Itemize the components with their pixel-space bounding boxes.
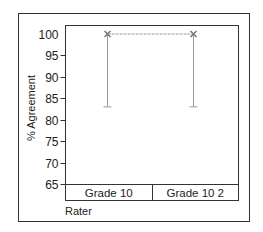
plot-area: Grade 10Grade 10 265707580859095100 [38, 26, 238, 201]
y-tick-label: 75 [45, 135, 59, 149]
y-tick-label: 100 [38, 28, 58, 42]
y-axis-title: % Agreement [25, 75, 37, 141]
y-tick-label: 90 [45, 71, 59, 85]
category-label: Grade 10 [85, 187, 133, 199]
y-tick-label: 95 [45, 49, 59, 63]
y-tick-label: 85 [45, 92, 59, 106]
chart: Grade 10Grade 10 265707580859095100 % Ag… [0, 0, 263, 232]
x-axis-title: Rater [65, 205, 92, 217]
category-label: Grade 10 2 [166, 187, 224, 199]
plot-frame [66, 26, 239, 201]
y-tick-label: 70 [45, 157, 59, 171]
y-tick-label: 80 [45, 114, 59, 128]
y-tick-label: 65 [45, 178, 59, 192]
